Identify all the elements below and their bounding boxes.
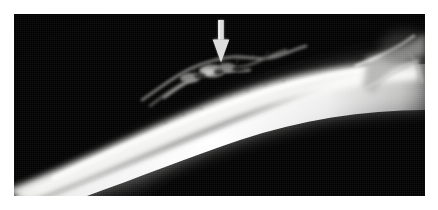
radiograph-figure: X-ray lateral periosteal-reaction long-b… [0, 0, 438, 210]
radiograph-image [14, 14, 425, 196]
arrow-highlight [218, 20, 220, 40]
radiograph-plate [14, 14, 425, 196]
